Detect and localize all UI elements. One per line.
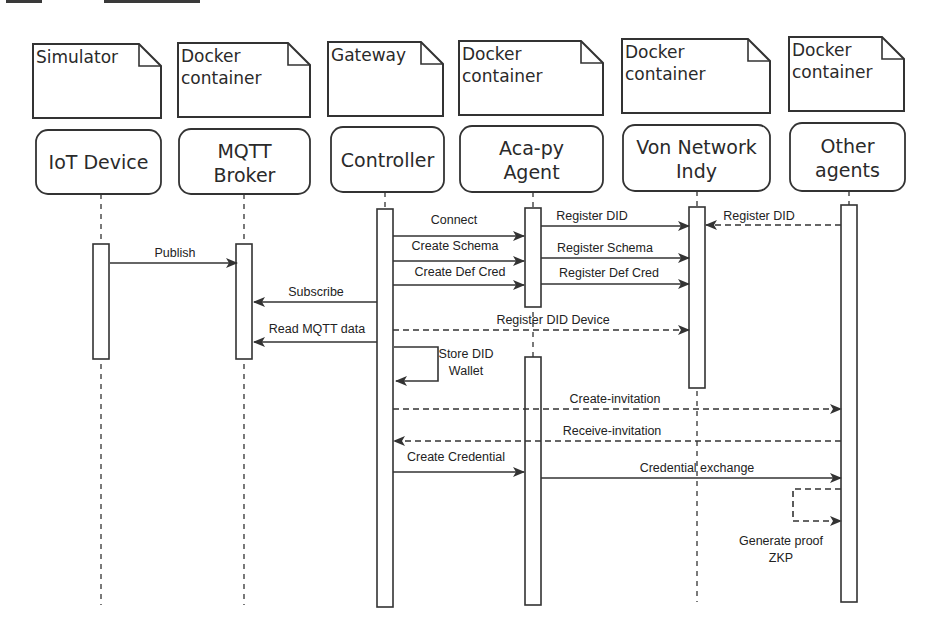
participant-name: agents: [815, 159, 880, 181]
message-arrow: Create-invitation: [393, 392, 841, 409]
activation-bar: [525, 208, 541, 307]
participant-name: Von Network: [636, 136, 757, 158]
self-message-label: Wallet: [449, 364, 484, 378]
message-arrow: Create Def Cred: [393, 265, 524, 285]
message-label: Register Def Cred: [559, 266, 659, 280]
container-label: container: [181, 68, 262, 88]
message-arrow: Register DID: [706, 209, 841, 225]
activation-bar: [93, 244, 109, 359]
participant-acapy: DockercontainerAca-pyAgent: [459, 41, 603, 192]
activation-bar: [689, 207, 705, 388]
message-label: Receive-invitation: [563, 424, 662, 438]
sequence-diagram: SimulatorIoT DeviceDockercontainerMQTTBr…: [0, 0, 933, 636]
activation-bar: [377, 209, 393, 607]
message-arrow: Read MQTT data: [254, 322, 377, 342]
participant-ctrl: GatewayController: [328, 42, 444, 192]
message-label: Register DID Device: [496, 313, 609, 327]
container-label: Docker: [625, 42, 685, 62]
message-label: Connect: [431, 213, 478, 227]
self-message: Store DIDWallet: [394, 347, 493, 381]
message-label: Read MQTT data: [269, 322, 365, 336]
message-label: Create Credential: [407, 450, 505, 464]
message-label: Subscribe: [288, 285, 344, 299]
activation-bar: [236, 244, 252, 359]
message-arrow: Register DID Device: [393, 313, 689, 330]
self-message: Generate proofZKP: [739, 489, 841, 565]
message-arrow: Register Schema: [541, 241, 689, 258]
message-arrow: Register DID: [541, 209, 689, 226]
container-label: container: [625, 64, 706, 84]
container-label: container: [462, 66, 543, 86]
participant-von: DockercontainerVon NetworkIndy: [622, 39, 770, 191]
activation-bar: [841, 205, 857, 602]
loop-arrow-icon: [394, 347, 438, 381]
message-label: Publish: [155, 246, 196, 260]
participant-name: Broker: [214, 164, 276, 186]
container-label: Docker: [462, 44, 522, 64]
participant-name: Other: [821, 135, 875, 157]
message-label: Register DID: [723, 209, 795, 223]
container-label: Gateway: [331, 45, 406, 65]
participant-iot: SimulatorIoT Device: [33, 44, 161, 194]
participant-mqtt: DockercontainerMQTTBroker: [178, 43, 310, 194]
message-arrow: Connect: [393, 213, 524, 236]
participant-name: MQTT: [217, 140, 272, 162]
message-arrow: Credential exchange: [541, 461, 841, 478]
message-arrow: Create Schema: [393, 239, 524, 261]
self-message-label: Generate proof: [739, 534, 824, 548]
container-label: container: [792, 62, 873, 82]
message-label: Create Def Cred: [414, 265, 505, 279]
container-label: Simulator: [36, 47, 118, 67]
message-arrow: Receive-invitation: [394, 424, 841, 441]
participant-name: Indy: [676, 160, 717, 182]
activation-bar: [525, 357, 541, 605]
message-label: Credential exchange: [640, 461, 755, 475]
message-label: Register DID: [556, 209, 628, 223]
message-label: Register Schema: [557, 241, 653, 255]
message-arrow: Subscribe: [254, 285, 377, 302]
message-label: Create Schema: [412, 239, 499, 253]
participant-name: Aca-py: [499, 137, 564, 159]
message-arrow: Register Def Cred: [541, 266, 689, 284]
container-label: Docker: [181, 46, 241, 66]
participant-other: DockercontainerOtheragents: [789, 37, 905, 191]
message-arrow: Create Credential: [393, 450, 524, 472]
participant-name: Controller: [341, 149, 435, 171]
message-arrow: Publish: [110, 246, 237, 263]
loop-arrow-icon: [793, 489, 841, 521]
self-message-label: ZKP: [769, 551, 793, 565]
container-label: Docker: [792, 40, 852, 60]
message-label: Create-invitation: [569, 392, 660, 406]
participant-name: IoT Device: [49, 151, 149, 173]
self-message-label: Store DID: [439, 347, 494, 361]
participant-name: Agent: [503, 161, 559, 183]
